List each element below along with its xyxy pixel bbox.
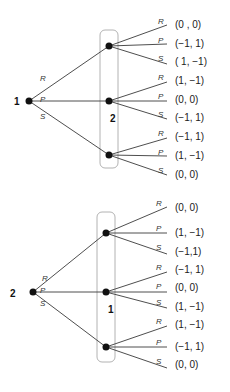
decision-node (103, 230, 110, 237)
payoff: (−1, 1) (175, 112, 204, 123)
action-label: S (158, 166, 164, 175)
payoff: (−1,1) (175, 246, 201, 257)
payoff: (−1, 1) (175, 341, 204, 352)
action-label: P (40, 286, 46, 295)
payoff: (1, −1) (175, 301, 204, 312)
action-label: S (40, 299, 46, 308)
action-label: S (156, 243, 162, 252)
action-label: R (156, 317, 162, 326)
root-player-label: 2 (10, 288, 16, 299)
action-label: R (156, 263, 162, 272)
action-label: S (156, 357, 162, 366)
payoff: (0, 0) (175, 282, 198, 293)
game-tree-bottom: 2 1 R P S R P S R P S R P S (0, 0) (1, −… (10, 199, 204, 370)
second-player-label: 2 (110, 113, 116, 124)
action-label: P (158, 92, 164, 101)
payoff: (0, 0) (175, 94, 198, 105)
action-label: P (158, 36, 164, 45)
action-label: R (158, 73, 164, 82)
root-node (30, 289, 37, 296)
tree-edge (33, 233, 106, 292)
action-label: P (156, 338, 162, 347)
payoff: (1, −1) (175, 75, 204, 86)
action-label: S (158, 110, 164, 119)
decision-node (106, 98, 113, 105)
payoff: (1, −1) (175, 150, 204, 161)
action-label: R (158, 129, 164, 138)
payoff: (1, −1) (175, 227, 204, 238)
second-player-label: 1 (108, 304, 114, 315)
payoff: (0 , 0) (175, 19, 201, 30)
action-label: S (40, 112, 46, 121)
edge-s (29, 101, 109, 155)
payoff: (0, 0) (175, 359, 198, 370)
action-label: R (158, 17, 164, 26)
payoff: (0, 0) (175, 169, 198, 180)
payoff: (1, −1) (175, 319, 204, 330)
decision-node (103, 344, 110, 351)
payoff: (0, 0) (175, 202, 198, 213)
action-label: P (158, 148, 164, 157)
root-node (26, 98, 33, 105)
root-player-label: 1 (14, 96, 20, 107)
payoff: (−1, 1) (175, 131, 204, 142)
action-label: S (158, 54, 164, 63)
action-label: R (40, 74, 46, 83)
payoff: (−1, 1) (175, 38, 204, 49)
action-label: P (40, 95, 46, 104)
game-tree-diagram: 1 2 R P S R P S R P S R P S (0 , 0) (−1,… (0, 0, 230, 392)
decision-node (106, 152, 113, 159)
action-label: P (156, 224, 162, 233)
action-label: P (156, 282, 162, 291)
decision-node (103, 289, 110, 296)
game-tree-top: 1 2 R P S R P S R P S R P S (0 , 0) (−1,… (14, 17, 207, 180)
action-label: R (42, 274, 48, 283)
action-label: S (156, 298, 162, 307)
action-label: R (156, 199, 162, 208)
payoff: (−1, 1) (175, 264, 204, 275)
payoff: ( 1, −1) (175, 56, 207, 67)
decision-node (106, 43, 113, 50)
